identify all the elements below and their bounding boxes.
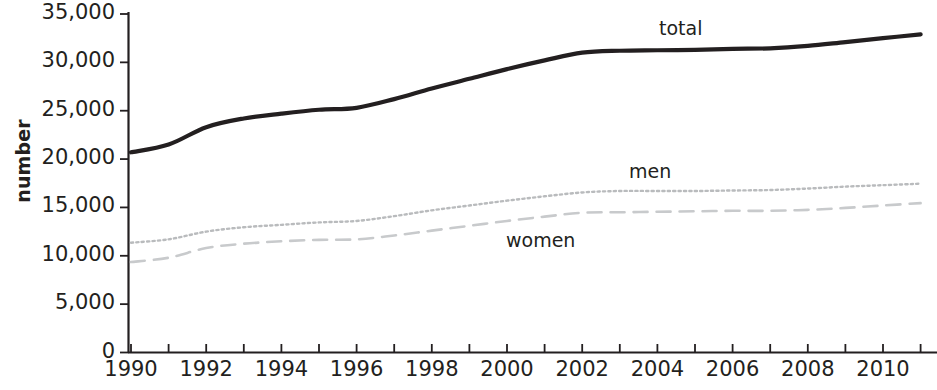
x-tick-label: 1994 [241, 357, 321, 381]
y-tick-label: 35,000 [12, 0, 115, 24]
series-label-total: total [659, 17, 702, 39]
y-tick-label: 30,000 [12, 48, 115, 72]
y-axis-ticks [120, 14, 129, 353]
x-tick-label: 1996 [317, 357, 397, 381]
y-tick-label: 5,000 [12, 290, 115, 314]
x-tick-label: 2006 [693, 357, 773, 381]
x-tick-label: 1998 [392, 357, 472, 381]
x-tick-label: 1992 [166, 357, 246, 381]
line-chart: number 05,00010,00015,00020,00025,00030,… [0, 0, 937, 390]
series-label-men: men [629, 160, 671, 182]
series-label-women: women [506, 229, 575, 251]
x-tick-label: 2002 [542, 357, 622, 381]
x-tick-label: 1990 [91, 357, 171, 381]
series-line-total [131, 34, 921, 152]
y-tick-label: 25,000 [12, 97, 115, 121]
x-axis-ticks [131, 344, 921, 353]
y-tick-label: 20,000 [12, 145, 115, 169]
x-tick-label: 2004 [617, 357, 697, 381]
x-tick-label: 2008 [768, 357, 848, 381]
y-tick-label: 10,000 [12, 242, 115, 266]
x-tick-label: 2010 [843, 357, 923, 381]
x-tick-label: 2000 [467, 357, 547, 381]
chart-plot-area [0, 0, 937, 390]
y-tick-label: 15,000 [12, 193, 115, 217]
